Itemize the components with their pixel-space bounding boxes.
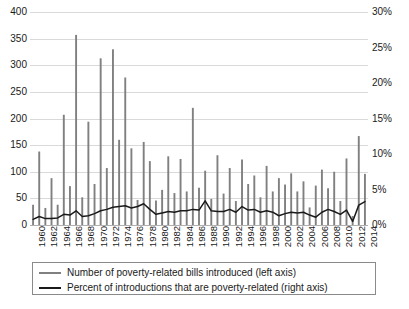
x-tick-label: 1986: [197, 226, 207, 247]
y-axis-right: 0%5%10%15%20%25%30%: [372, 12, 408, 225]
y-tick-label-left: 300: [10, 60, 27, 70]
x-tick-label: 1998: [271, 226, 281, 247]
x-tick-label: 1972: [111, 226, 121, 247]
x-tick-label: 1996: [258, 226, 268, 247]
y-tick-label-right: 20%: [372, 78, 392, 88]
y-tick-label-right: 15%: [372, 114, 392, 124]
bottom-caption: [0, 300, 409, 309]
chart-legend: Number of poverty-related bills introduc…: [32, 262, 376, 295]
legend-label-bars: Number of poverty-related bills introduc…: [67, 267, 296, 278]
legend-item-bars: Number of poverty-related bills introduc…: [39, 266, 375, 279]
y-tick-label-right: 10%: [372, 149, 392, 159]
x-tick-label: 1970: [99, 226, 109, 247]
x-tick-label: 1980: [160, 226, 170, 247]
y-tick-label-left: 150: [10, 140, 27, 150]
x-tick-label: 1978: [148, 226, 158, 247]
x-tick-label: 1992: [234, 226, 244, 247]
x-tick-label: 1982: [172, 226, 182, 247]
y-tick-label-left: 0: [21, 220, 27, 230]
x-tick-label: 2008: [332, 226, 342, 247]
chart-root: 050100150200250300350400 0%5%10%15%20%25…: [0, 0, 409, 309]
legend-swatch-line-icon: [39, 287, 61, 289]
y-tick-label-left: 200: [10, 114, 27, 124]
y-tick-label-left: 100: [10, 167, 27, 177]
x-tick-label: 1968: [86, 226, 96, 247]
y-tick-label-right: 5%: [372, 185, 386, 195]
x-tick-label: 1990: [221, 226, 231, 247]
x-tick-label: 1966: [74, 226, 84, 247]
x-tick-label: 2006: [320, 226, 330, 247]
y-tick-label-right: 25%: [372, 43, 392, 53]
x-tick-label: 2010: [344, 226, 354, 247]
y-tick-label-left: 250: [10, 87, 27, 97]
x-tick-label: 1988: [209, 226, 219, 247]
x-axis: 1960196219641966196819701972197419761978…: [30, 226, 368, 256]
x-tick-label: 1976: [135, 226, 145, 247]
x-tick-label: 2004: [307, 226, 317, 247]
x-tick-label: 2012: [357, 226, 367, 247]
y-tick-label-right: 30%: [372, 7, 392, 17]
x-tick-label: 2000: [283, 226, 293, 247]
line-series-layer: [30, 12, 368, 225]
line-path: [33, 201, 365, 222]
x-tick-label: 1974: [123, 226, 133, 247]
legend-label-line: Percent of introductions that are povert…: [67, 282, 328, 293]
x-tick-label: 2014: [369, 226, 379, 247]
x-tick-label: 2002: [295, 226, 305, 247]
y-tick-label-left: 350: [10, 34, 27, 44]
x-tick-label: 1994: [246, 226, 256, 247]
x-tick-label: 1964: [62, 226, 72, 247]
x-tick-label: 1984: [185, 226, 195, 247]
y-axis-left: 050100150200250300350400: [0, 12, 27, 225]
legend-swatch-bars-icon: [39, 272, 61, 274]
y-tick-label-left: 400: [10, 7, 27, 17]
plot-area: [30, 12, 368, 225]
y-tick-label-left: 50: [16, 193, 27, 203]
x-tick-label: 1962: [49, 226, 59, 247]
legend-item-line: Percent of introductions that are povert…: [39, 281, 375, 294]
x-tick-label: 1960: [37, 226, 47, 247]
